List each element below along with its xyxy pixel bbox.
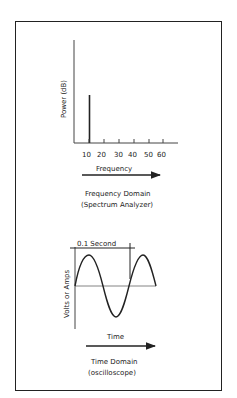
freq-x-label: Frequency [96, 165, 132, 173]
time-y-label: Volts or Amps [63, 269, 71, 318]
diagram-canvas: 10 20 30 40 50 60 Power (dB) Frequency F… [0, 0, 237, 398]
tick-label: 20 [97, 151, 106, 159]
freq-caption-2: (Spectrum Analyzer) [81, 201, 153, 209]
tick-label: 10 [82, 151, 91, 159]
tick-label: 60 [157, 151, 166, 159]
tick-label: 40 [128, 151, 137, 159]
time-caption-1: Time Domain [90, 358, 138, 366]
freq-caption-1: Frequency Domain [85, 190, 151, 198]
tick-label: 30 [114, 151, 123, 159]
time-caption-2: (oscilloscope) [88, 369, 136, 377]
time-x-label: Time [106, 333, 124, 341]
period-label: 0.1 Second [77, 240, 116, 248]
freq-y-label: Power (dB) [60, 80, 68, 118]
frequency-chart: 10 20 30 40 50 60 Power (dB) Frequency F… [60, 40, 178, 209]
time-chart: 0.1 Second Volts or Amps Time Time Domai… [63, 240, 156, 377]
tick-label: 50 [144, 151, 153, 159]
